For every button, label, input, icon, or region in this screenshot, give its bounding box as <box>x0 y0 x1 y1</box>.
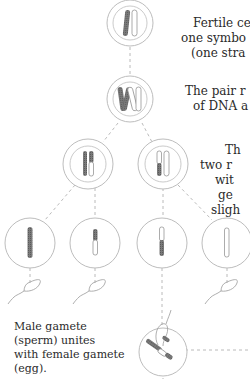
gamete-cell-1 <box>5 218 55 268</box>
cell-division-left <box>63 139 113 189</box>
label-two-divisions: Th two r wit ge sligh <box>195 143 241 218</box>
label-fertile-cell: Fertile cel one symbo (one stra <box>181 16 250 61</box>
cell-replicated <box>107 76 153 122</box>
gamete-cell-2 <box>70 218 120 268</box>
sperm-icon <box>205 280 237 304</box>
cell-fertile <box>107 0 153 46</box>
sperm-icon <box>73 280 105 304</box>
label-fertilization: Male gamete (sperm) unites with female g… <box>14 320 125 376</box>
fertilized-egg <box>139 310 187 376</box>
sperm-icons <box>8 280 237 304</box>
gamete-cell-3 <box>137 218 187 268</box>
gamete-cell-4 <box>202 218 250 268</box>
cell-division-right <box>138 139 188 189</box>
sperm-icon <box>8 280 40 304</box>
label-pair-replicates: The pair r of DNA a <box>185 84 248 114</box>
